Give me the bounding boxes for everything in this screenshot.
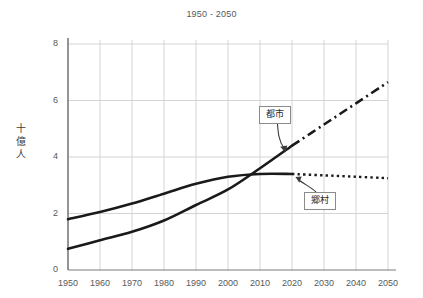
x-tick-2020: 2020: [275, 278, 309, 288]
y-tick-2: 2: [38, 208, 58, 218]
callout-urban: 都市: [259, 106, 291, 124]
callout-rural: 郷村: [304, 192, 336, 210]
y-tick-6: 6: [38, 95, 58, 105]
plot-area: [0, 0, 423, 298]
x-tick-2000: 2000: [211, 278, 245, 288]
x-tick-1980: 1980: [147, 278, 181, 288]
urban-historical-line: [68, 146, 292, 249]
x-tick-1950: 1950: [51, 278, 85, 288]
x-tick-2010: 2010: [243, 278, 277, 288]
y-tick-4: 4: [38, 151, 58, 161]
x-tick-2040: 2040: [339, 278, 373, 288]
x-tick-2030: 2030: [307, 278, 341, 288]
y-tick-8: 8: [38, 38, 58, 48]
rural-callout-leader: [295, 176, 316, 192]
x-tick-1990: 1990: [179, 278, 213, 288]
chart-container: 1950 - 2050 十 億 人: [0, 0, 423, 298]
rural-projection-line: [292, 174, 388, 178]
x-tick-1970: 1970: [115, 278, 149, 288]
urban-projection-line: [292, 82, 388, 146]
x-tick-2050: 2050: [371, 278, 405, 288]
y-tick-0: 0: [38, 264, 58, 274]
x-tick-1960: 1960: [83, 278, 117, 288]
